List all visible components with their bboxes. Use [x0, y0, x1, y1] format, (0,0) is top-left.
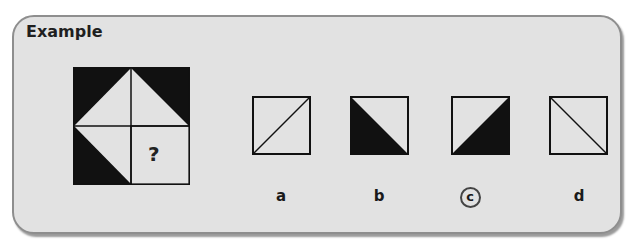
option-a-label[interactable]: a	[266, 187, 296, 205]
option-d-figure[interactable]	[549, 96, 608, 155]
option-d-label[interactable]: d	[564, 187, 594, 205]
option-b-figure[interactable]	[350, 96, 409, 155]
option-c-figure[interactable]	[451, 96, 510, 155]
option-a-text: a	[276, 187, 286, 205]
option-c-text-circled: c	[460, 187, 481, 208]
panel-title: Example	[26, 22, 103, 41]
option-c-label-selected[interactable]: c	[455, 187, 485, 208]
option-d-text: d	[574, 187, 585, 205]
puzzle-grid	[73, 67, 190, 185]
missing-piece-marker: ?	[148, 142, 160, 166]
option-a-figure[interactable]	[252, 96, 311, 155]
option-b-label[interactable]: b	[364, 187, 394, 205]
option-b-text: b	[374, 187, 385, 205]
